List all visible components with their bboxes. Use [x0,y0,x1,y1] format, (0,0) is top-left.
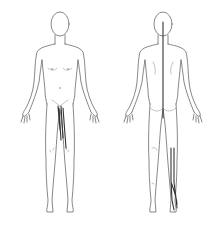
front-knees [50,148,69,152]
front-navel [59,87,60,88]
front-head [51,12,69,36]
front-nipple-left [51,68,52,69]
front-figure [21,12,99,212]
front-nipple-right [67,68,68,69]
front-torso-arms [23,44,98,116]
front-torso-sides [42,60,78,104]
body-chart-svg [0,0,215,245]
back-knee-left [152,148,157,184]
back-legs [149,104,178,212]
front-pelvis [52,100,68,106]
front-marking-groin-thigh [58,106,66,148]
front-inner-arms [29,60,91,112]
back-marking-calf-heel [171,148,177,210]
body-chart [0,0,215,245]
